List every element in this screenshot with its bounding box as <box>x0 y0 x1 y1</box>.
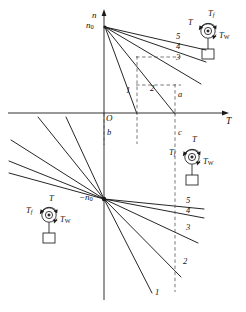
pulley-arrow-head-right-1 <box>212 35 216 39</box>
upper-curve-label-4: 4 <box>176 42 180 51</box>
pulley-1-right-label: TW <box>219 31 230 40</box>
pulley-top-right-graphic <box>201 23 216 59</box>
upper-curve-label-2: 2 <box>150 84 154 93</box>
pulley-middle-right-graphic <box>185 149 200 185</box>
lower-curve-label-2: 2 <box>183 257 187 266</box>
upper-curve-2 <box>105 27 175 114</box>
lower-left-curve-2 <box>38 117 104 199</box>
figure-canvas <box>0 0 246 312</box>
point-c-label: c <box>178 128 182 137</box>
pulley-3-top-label: T <box>49 194 54 203</box>
lower-curve-label-5: 5 <box>186 196 190 205</box>
construction-dashed-lines <box>104 56 181 292</box>
pulley-shaft-dot-3 <box>48 214 50 216</box>
point-b-label: b <box>107 128 111 137</box>
t-axis-arrowhead <box>222 111 229 116</box>
lower-curve-label-4: 4 <box>186 206 190 215</box>
n-axis-label: n <box>92 11 97 20</box>
pulley-1-left-label: T <box>188 18 193 27</box>
pulley-2-left-label: Tf <box>169 148 175 157</box>
origin-label: O <box>106 114 113 123</box>
lower-curve-3 <box>104 199 198 243</box>
pulley-shaft-dot-1 <box>207 30 209 32</box>
upper-curve-label-1: 1 <box>126 86 130 95</box>
lower-curve-label-1: 1 <box>155 288 159 297</box>
pulley-bottom-left-graphic <box>42 207 57 243</box>
speed-torque-figure: n T O n0 −n0 a b c 1 2 3 4 5 1 2 3 4 5 T… <box>0 0 246 312</box>
pulley-weight-3 <box>43 233 55 243</box>
pulley-weight-1 <box>202 49 214 59</box>
upper-fan-origin-dot <box>103 25 106 28</box>
n-axis-arrowhead <box>102 9 107 16</box>
pulley-2-right-label: TW <box>203 157 214 166</box>
upper-curve-label-5: 5 <box>176 32 180 41</box>
pulley-weight-2 <box>186 175 198 185</box>
lower-fan-origin-dot <box>102 197 106 201</box>
pulley-arrow-head-right-3 <box>53 219 57 223</box>
point-a-label: a <box>178 90 182 99</box>
pulley-3-left-label: Tf <box>26 206 32 215</box>
negative-n0-label: −n0 <box>79 193 93 203</box>
upper-characteristic-curves <box>105 27 206 114</box>
lower-curve-1 <box>104 199 152 293</box>
lower-curve-label-3: 3 <box>186 223 190 232</box>
pulley-3-right-label: TW <box>60 215 71 224</box>
upper-curve-label-3: 3 <box>176 53 180 62</box>
pulley-2-top-label: T <box>192 135 197 144</box>
pulley-shaft-dot-2 <box>191 156 193 158</box>
lower-curve-2 <box>104 199 181 277</box>
upper-curve-1 <box>105 27 137 114</box>
n0-label: n0 <box>86 21 94 31</box>
t-axis-label: T <box>226 117 231 127</box>
pulley-1-top-label: Tf <box>208 9 214 18</box>
pulley-arrow-head-right-2 <box>196 161 200 165</box>
